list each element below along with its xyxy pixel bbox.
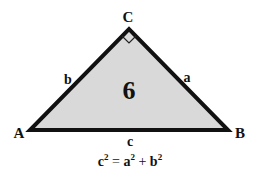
vertex-label-b: B [235,125,245,141]
vertex-label-c: C [123,9,134,25]
side-label-b: b [64,72,72,87]
center-number: 6 [123,76,136,105]
right-triangle-diagram: C A B b a c 6 c2 = a2 + b2 [0,0,257,176]
pythagorean-equation: c2 = a2 + b2 [98,152,163,169]
side-label-c: c [127,134,133,149]
vertex-label-a: A [14,125,25,141]
side-label-a: a [184,70,191,85]
